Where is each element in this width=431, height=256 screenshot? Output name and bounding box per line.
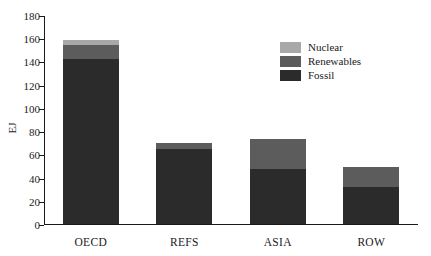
bar-group: OECD (63, 15, 119, 224)
bar-stack (343, 167, 399, 224)
legend-label: Fossil (308, 70, 334, 81)
legend-swatch (280, 70, 301, 81)
bar-stack (156, 143, 212, 224)
bar-segment-fossil (343, 187, 399, 224)
bar-segment-renewables (250, 139, 306, 170)
legend-item: Renewables (280, 56, 361, 67)
y-axis-tick-label: 40 (29, 173, 40, 184)
bar-group: REFS (156, 15, 212, 224)
legend-item: Fossil (280, 70, 361, 81)
stacked-bar-chart: EJ 020406080100120140160180 OECDREFSASIA… (0, 0, 431, 256)
legend-label: Nuclear (308, 42, 343, 53)
y-axis-tick-label: 20 (29, 196, 40, 207)
y-axis-tick-label: 120 (24, 80, 41, 91)
bar-segment-fossil (250, 169, 306, 224)
legend-swatch (280, 42, 301, 53)
y-axis-tick-label: 60 (29, 150, 40, 161)
chart-legend: NuclearRenewablesFossil (280, 42, 361, 81)
bar-segment-renewables (63, 45, 119, 59)
bar-segment-fossil (156, 149, 212, 224)
bar-segment-fossil (63, 59, 119, 224)
legend-swatch (280, 56, 301, 67)
legend-item: Nuclear (280, 42, 361, 53)
x-axis-tick-label: REFS (170, 236, 199, 248)
y-axis-tick-label: 140 (24, 57, 41, 68)
bar-segment-renewables (343, 167, 399, 187)
y-axis-tick-label: 100 (24, 103, 41, 114)
y-axis-tick-label: 180 (24, 11, 41, 22)
bar-stack (63, 40, 119, 224)
y-axis-tick-label: 80 (29, 127, 40, 138)
x-axis-tick-label: ROW (357, 236, 385, 248)
bar-stack (250, 139, 306, 224)
y-axis-tick-label: 160 (24, 34, 41, 45)
y-axis-line (44, 16, 45, 225)
x-axis-tick-label: OECD (74, 236, 107, 248)
y-axis-title: EJ (6, 123, 18, 134)
plot-area: 020406080100120140160180 OECDREFSASIAROW… (44, 16, 418, 225)
x-axis-line (44, 224, 418, 225)
y-axis-tick-label: 0 (35, 220, 41, 231)
x-axis-tick-label: ASIA (264, 236, 292, 248)
legend-label: Renewables (308, 56, 361, 67)
